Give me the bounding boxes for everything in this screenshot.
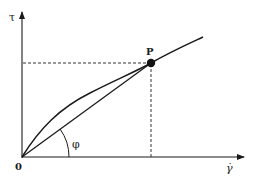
angle-arc	[60, 129, 69, 157]
x-axis-label: γ̇	[226, 162, 233, 175]
point-p	[147, 59, 155, 67]
angle-label: φ	[72, 138, 80, 151]
point-p-label: P	[146, 46, 154, 57]
origin-label: 0	[15, 161, 22, 172]
shear-stress-diagram: τ γ̇ 0 P φ	[0, 0, 262, 182]
y-axis-label: τ	[9, 11, 15, 24]
secant-line	[22, 63, 151, 157]
flow-curve	[22, 37, 203, 157]
